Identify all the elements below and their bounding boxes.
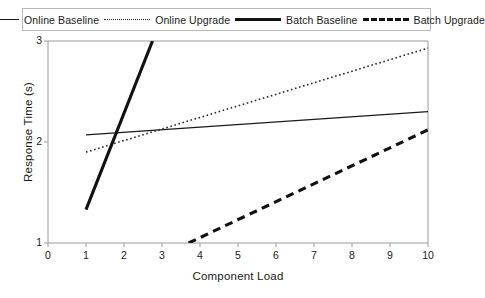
x-tick-label: 2: [113, 249, 135, 261]
x-tick-label: 8: [341, 249, 363, 261]
series-line-online-upgrade: [86, 48, 428, 152]
x-tick-label: 1: [75, 249, 97, 261]
x-tick-label: 7: [303, 249, 325, 261]
chart-axes: [44, 41, 428, 247]
series-line-batch-baseline: [86, 41, 153, 210]
x-tick-label: 6: [265, 249, 287, 261]
y-tick-label: 3: [26, 34, 42, 46]
x-tick-label: 0: [37, 249, 59, 261]
y-tick-label: 1: [26, 236, 42, 248]
x-tick-label: 5: [227, 249, 249, 261]
x-tick-label: 4: [189, 249, 211, 261]
series-line-online-baseline: [86, 112, 428, 135]
y-axis-title: Response Time (s): [22, 42, 34, 222]
x-tick-label: 3: [151, 249, 173, 261]
y-tick-label: 2: [26, 135, 42, 147]
x-tick-label: 10: [417, 249, 439, 261]
chart-series-layer: [86, 41, 428, 243]
series-line-batch-upgrade: [189, 130, 428, 243]
x-tick-label: 9: [379, 249, 401, 261]
x-axis-title: Component Load: [48, 270, 428, 282]
